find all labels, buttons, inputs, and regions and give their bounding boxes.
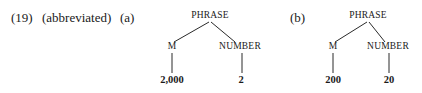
branch-a-left — [174, 22, 209, 42]
tree-branches — [0, 0, 422, 93]
branch-b-left — [335, 22, 367, 42]
branch-a-right — [211, 22, 235, 42]
branch-b-right — [369, 22, 385, 42]
